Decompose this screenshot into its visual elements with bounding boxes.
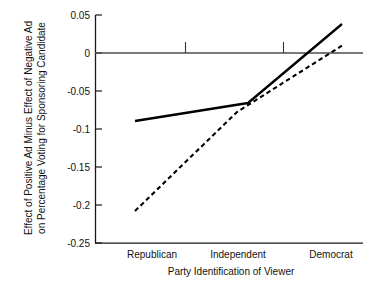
y-tick-label-3: -0.1 xyxy=(73,124,91,135)
x-category-labels: Republican Independent Democrat xyxy=(127,249,353,260)
y-tick-label-5: -0.2 xyxy=(73,200,91,211)
zero-line-ticks xyxy=(186,42,284,53)
x-label-republican: Republican xyxy=(127,249,177,260)
x-label-independent: Independent xyxy=(210,249,266,260)
y-axis-ticks xyxy=(96,15,103,243)
series-dashed-line xyxy=(135,45,343,211)
y-tick-label-2: -0.05 xyxy=(67,86,90,97)
y-axis-title-line1: Effect of Positive Ad Minus Effect of Ne… xyxy=(23,21,34,235)
y-axis-title-line2: on Percentage Voting for Sponsoring Cand… xyxy=(36,22,47,234)
y-tick-label-1: 0 xyxy=(84,48,90,59)
y-tick-label-4: -0.15 xyxy=(67,162,90,173)
y-tick-label-0: 0.05 xyxy=(71,10,91,21)
chart-svg: 0.05 0 -0.05 -0.1 -0.15 -0.2 -0.25 Repub… xyxy=(0,0,383,292)
x-axis-title: Party Identification of Viewer xyxy=(168,266,295,277)
y-tick-label-6: -0.25 xyxy=(67,238,90,249)
series-solid-line xyxy=(135,24,342,121)
y-tick-labels: 0.05 0 -0.05 -0.1 -0.15 -0.2 -0.25 xyxy=(67,10,90,249)
x-label-democrat: Democrat xyxy=(309,249,353,260)
chart-figure: 0.05 0 -0.05 -0.1 -0.15 -0.2 -0.25 Repub… xyxy=(0,0,383,292)
y-axis-title: Effect of Positive Ad Minus Effect of Ne… xyxy=(23,21,47,235)
